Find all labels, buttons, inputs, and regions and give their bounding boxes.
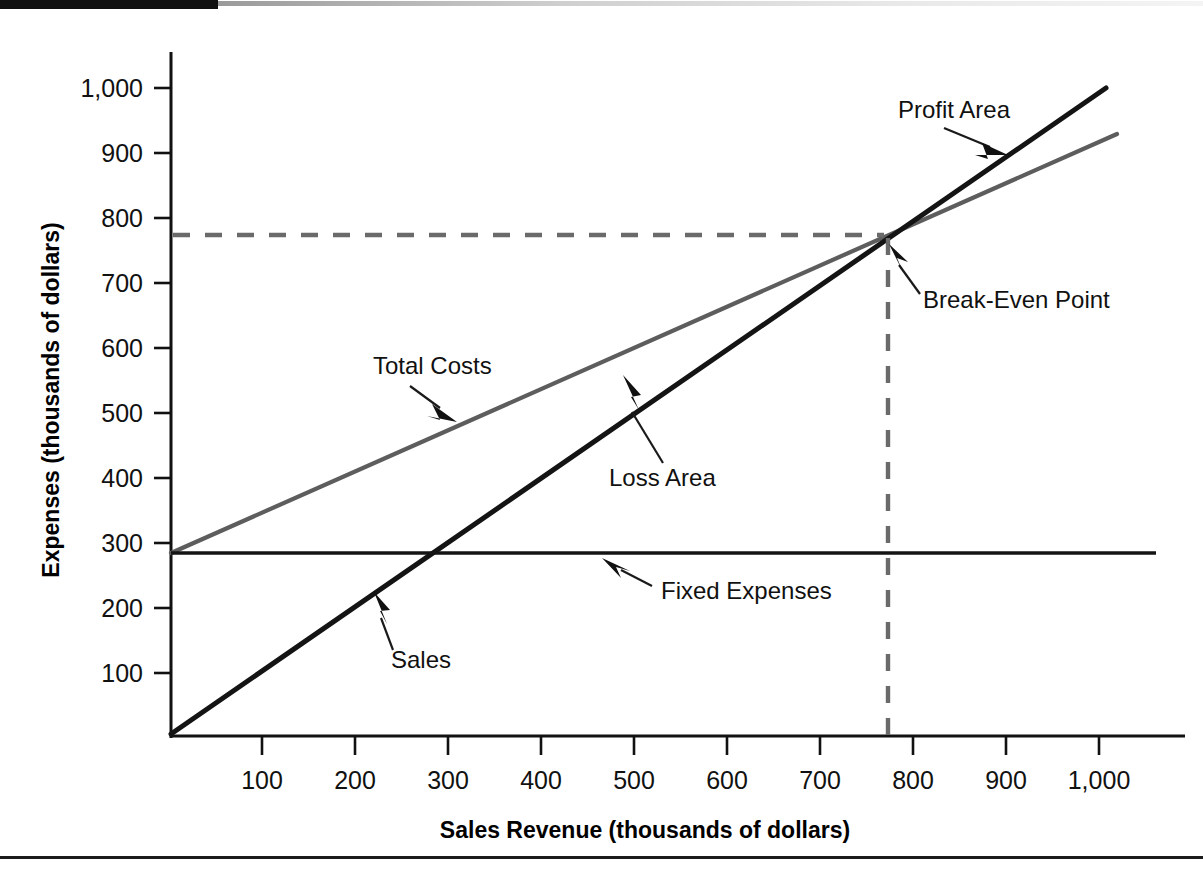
x-tick-label-600: 600: [706, 766, 748, 794]
annotation-profit-area: Profit Area: [898, 96, 1011, 159]
loss-area-label: Loss Area: [609, 464, 716, 491]
y-tick-label-700: 700: [101, 269, 143, 297]
y-tick-group: 1,000 900 800 700 600 500 400 300 200 10…: [80, 74, 171, 687]
loss-area-arrowhead: [623, 375, 641, 410]
break-even-point-leader: [899, 265, 920, 294]
sales-label: Sales: [391, 646, 451, 673]
series-line-sales: [171, 88, 1106, 734]
annotation-total-costs: Total Costs: [373, 352, 492, 422]
x-tick-group: 100 200 300 400 500 600 700 800 900 1,00…: [241, 736, 1130, 794]
annotation-fixed-expenses: Fixed Expenses: [602, 558, 832, 604]
breakeven-plot: 1,000 900 800 700 600 500 400 300 200 10…: [0, 0, 1203, 880]
x-tick-label-900: 900: [985, 766, 1027, 794]
y-tick-label-800: 800: [101, 204, 143, 232]
profit-area-label: Profit Area: [898, 96, 1011, 123]
x-tick-label-200: 200: [334, 766, 376, 794]
axis-group: [171, 52, 1185, 738]
y-tick-label-900: 900: [101, 139, 143, 167]
fixed-expenses-arrowhead: [602, 558, 630, 578]
total-costs-label: Total Costs: [373, 352, 492, 379]
series-group: [171, 88, 1156, 734]
y-axis-title: Expenses (thousands of dollars): [38, 222, 64, 577]
total-costs-leader: [410, 386, 440, 408]
breakeven-chart-figure: 1,000 900 800 700 600 500 400 300 200 10…: [0, 0, 1203, 880]
x-tick-label-1000: 1,000: [1068, 766, 1131, 794]
loss-area-leader: [632, 412, 663, 463]
fixed-expenses-label: Fixed Expenses: [661, 577, 832, 604]
y-tick-label-300: 300: [101, 529, 143, 557]
x-tick-label-500: 500: [613, 766, 655, 794]
y-tick-label-400: 400: [101, 464, 143, 492]
x-axis-title: Sales Revenue (thousands of dollars): [440, 817, 850, 843]
fixed-expenses-leader: [621, 570, 652, 586]
break-even-point-arrowhead: [889, 244, 908, 272]
y-tick-label-100: 100: [101, 659, 143, 687]
x-tick-label-100: 100: [241, 766, 283, 794]
x-tick-label-300: 300: [427, 766, 469, 794]
y-tick-label-200: 200: [101, 594, 143, 622]
y-tick-label-1000: 1,000: [80, 74, 143, 102]
break-even-point-label: Break-Even Point: [923, 286, 1110, 313]
x-tick-label-400: 400: [520, 766, 562, 794]
x-tick-label-800: 800: [892, 766, 934, 794]
x-tick-label-700: 700: [799, 766, 841, 794]
y-tick-label-500: 500: [101, 399, 143, 427]
annotation-sales: Sales: [374, 592, 451, 673]
sales-leader: [381, 618, 393, 650]
total-costs-arrowhead: [427, 404, 457, 422]
annotation-break-even-point: Break-Even Point: [889, 244, 1110, 313]
y-tick-label-600: 600: [101, 334, 143, 362]
